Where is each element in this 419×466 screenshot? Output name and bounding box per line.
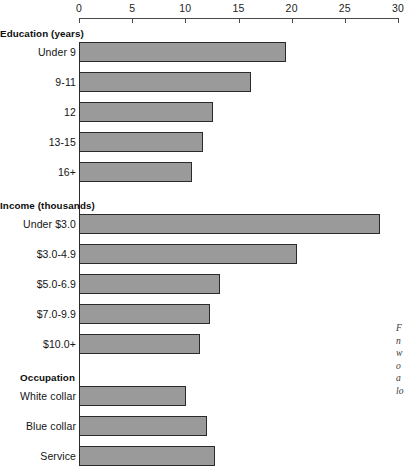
bar <box>79 334 200 354</box>
bar <box>79 42 286 62</box>
bar-label: $3.0-4.9 <box>1 244 76 264</box>
bar <box>79 274 220 294</box>
x-axis-tick-label: 25 <box>339 2 351 14</box>
bar-label: Blue collar <box>1 416 76 436</box>
bar <box>79 446 215 466</box>
bar-label: 13-15 <box>1 132 76 152</box>
group-heading: Income (thousands) <box>0 200 78 211</box>
bar <box>79 102 213 122</box>
bar-row: 16+ <box>0 162 419 182</box>
bar-label: $10.0+ <box>1 334 76 354</box>
caption-line: o <box>396 360 419 373</box>
bar <box>79 162 192 182</box>
bar-row: Under 9 <box>0 42 419 62</box>
bar-row: White collar <box>0 386 419 406</box>
x-axis-tick-label: 20 <box>286 2 298 14</box>
bar-row: 9-11 <box>0 72 419 92</box>
x-axis-tick <box>132 18 133 23</box>
bar <box>79 132 203 152</box>
bar-label: $7.0-9.9 <box>1 304 76 324</box>
bar-label: Service <box>1 446 76 466</box>
bar-label: 16+ <box>1 162 76 182</box>
figure-caption: F n w o a lo <box>396 322 419 402</box>
bar-label: 12 <box>1 102 76 122</box>
bar-row: Under $3.0 <box>0 214 419 234</box>
x-axis-tick-label: 0 <box>76 2 82 14</box>
x-axis-tick <box>79 18 80 23</box>
bar-label: White collar <box>1 386 76 406</box>
x-axis-tick-label: 5 <box>129 2 135 14</box>
bar <box>79 72 251 92</box>
bar-label: $5.0-6.9 <box>1 274 76 294</box>
bar-row: $7.0-9.9 <box>0 304 419 324</box>
plot-area: Education (years)Under 99-111213-1516+In… <box>0 26 419 402</box>
x-axis-tick-label: 10 <box>179 2 191 14</box>
bar-row: Service <box>0 446 419 466</box>
bar <box>79 386 186 406</box>
bar-row: 12 <box>0 102 419 122</box>
bar-label: Under 9 <box>1 42 76 62</box>
x-axis-tick <box>345 18 346 23</box>
bar <box>79 214 380 234</box>
bar <box>79 416 207 436</box>
x-axis-tick <box>292 18 293 23</box>
x-axis-tick <box>398 18 399 23</box>
bar-row: Blue collar <box>0 416 419 436</box>
x-axis: 051015202530 <box>0 0 419 26</box>
x-axis-tick-label: 30 <box>392 2 404 14</box>
bar-row: $5.0-6.9 <box>0 274 419 294</box>
bar <box>79 304 210 324</box>
bar-row: $3.0-4.9 <box>0 244 419 264</box>
x-axis-tick <box>239 18 240 23</box>
caption-line: n <box>396 335 419 348</box>
caption-line: lo <box>396 385 419 398</box>
bar-label: Under $3.0 <box>1 214 76 234</box>
group-heading: Education (years) <box>0 28 78 39</box>
bar-row: $10.0+ <box>0 334 419 354</box>
bar-label: 9-11 <box>1 72 76 92</box>
bar <box>79 244 297 264</box>
x-axis-tick-label: 15 <box>232 2 244 14</box>
caption-line: a <box>396 372 419 385</box>
x-axis-tick <box>185 18 186 23</box>
caption-line: w <box>396 347 419 360</box>
bar-row: 13-15 <box>0 132 419 152</box>
caption-line: F <box>396 322 419 335</box>
group-heading: Occupation <box>0 372 78 383</box>
